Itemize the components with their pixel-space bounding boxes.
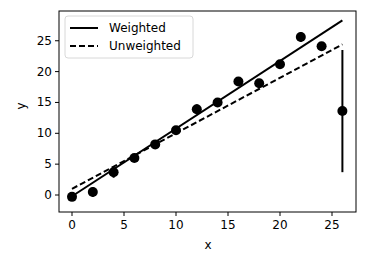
y-tick-label: 15	[37, 95, 52, 109]
x-tick-label: 0	[68, 218, 76, 232]
data-point	[254, 78, 264, 88]
x-tick-label: 5	[120, 218, 128, 232]
data-point	[88, 187, 98, 197]
y-tick-label: 10	[37, 126, 52, 140]
legend: WeightedUnweighted	[65, 16, 193, 58]
figure: 05101520250510152025 WeightedUnweighted …	[0, 0, 374, 263]
data-point	[109, 167, 119, 177]
y-tick-label: 20	[37, 65, 52, 79]
data-point	[150, 139, 160, 149]
data-point	[317, 41, 327, 51]
x-tick-label: 15	[220, 218, 235, 232]
data-point	[129, 153, 139, 163]
y-tick-label: 5	[44, 157, 52, 171]
data-point	[192, 104, 202, 114]
data-point	[213, 97, 223, 107]
data-point	[296, 32, 306, 42]
data-point	[275, 59, 285, 69]
unweighted-legend-label: Unweighted	[109, 39, 181, 53]
x-tick-label: 20	[272, 218, 287, 232]
data-point	[67, 192, 77, 202]
y-tick-label: 25	[37, 34, 52, 48]
weighted-legend-label: Weighted	[109, 21, 166, 35]
data-point	[337, 106, 347, 116]
x-tick-label: 25	[324, 218, 339, 232]
x-tick-label: 10	[168, 218, 183, 232]
data-point	[233, 76, 243, 86]
y-axis-label: y	[14, 102, 28, 109]
data-point	[171, 125, 181, 135]
y-tick-label: 0	[44, 188, 52, 202]
x-axis-label: x	[204, 238, 211, 252]
